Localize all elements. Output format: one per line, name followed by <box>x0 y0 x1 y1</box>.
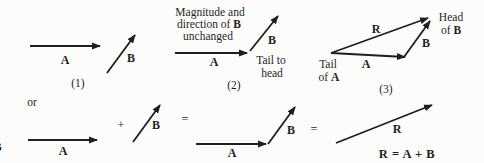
eqrow-vector-a-second-label: A <box>228 147 237 159</box>
panel3-head-line2-vector: B <box>453 24 461 36</box>
panel3-caption: (3) <box>379 84 392 96</box>
clipped-edge-character: B <box>0 139 2 155</box>
eqrow-vector-r-label: R <box>393 123 402 135</box>
panel2-annotation-line2: direction of B <box>177 19 241 31</box>
panel1-caption: (1) <box>71 78 84 90</box>
panel1-vector-a-label: A <box>61 54 70 66</box>
eqrow-plus-sign: + <box>118 119 125 131</box>
panel3-head-line2: of B <box>441 25 461 37</box>
panel1-vector-b-label: B <box>127 52 135 64</box>
eqrow-vector-b-second-label: B <box>287 124 295 136</box>
panel2-vector-a-label: A <box>210 56 219 68</box>
panel3-vector-b-label: B <box>422 37 430 49</box>
panel3-head-line1: Head <box>439 12 463 24</box>
eqrow-vector-r-arrow <box>336 105 432 143</box>
panel3-head-line2-text: of <box>441 24 453 36</box>
panel2-tail-to-head-line2: head <box>261 68 283 80</box>
eqrow-equals-sign-second: = <box>311 123 318 135</box>
eqrow-result-equation: R = A + B <box>379 148 435 161</box>
panel2-annotation-line3: unchanged <box>183 31 233 43</box>
panel3-vector-r-label: R <box>372 23 381 35</box>
panel2-vector-b-label: B <box>268 34 276 46</box>
panel2-annotation-line2-text: direction of <box>177 18 233 30</box>
eqrow-equals-sign-first: = <box>182 113 189 125</box>
panel3-vector-a-label: A <box>362 58 371 70</box>
panel3-tail-line2-text: of <box>319 71 331 83</box>
panel3-tail-line2: of A <box>319 72 340 84</box>
panel2-annotation-line2-vector: B <box>233 18 241 30</box>
panel3-tail-line2-vector: A <box>331 71 339 83</box>
eqrow-or-label: or <box>27 97 37 109</box>
panel3-tail-line1: Tail <box>319 59 337 71</box>
eqrow-vector-a-first-label: A <box>59 145 68 157</box>
panel2-caption: (2) <box>227 80 240 92</box>
vector-addition-figure: A B (1) Magnitude and direction of B unc… <box>0 0 484 163</box>
eqrow-vector-b-first-label: B <box>152 119 160 131</box>
panel2-annotation-line1: Magnitude and <box>175 7 244 19</box>
panel2-tail-to-head-line1: Tail to <box>256 55 286 67</box>
